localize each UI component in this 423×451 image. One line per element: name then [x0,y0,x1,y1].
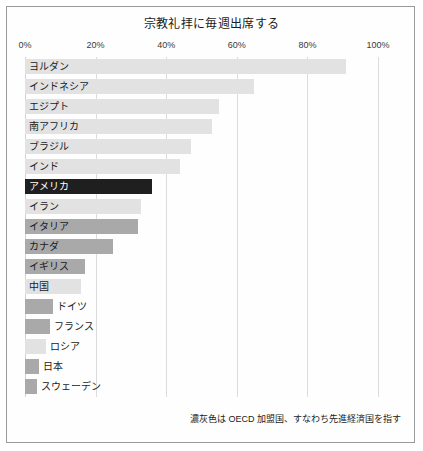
bar[interactable] [25,59,346,74]
bar-row[interactable]: イタリア [0,217,423,238]
bar-rows: ヨルダンインドネシアエジプト南アフリカブラジルインドアメリカイランイタリアカナダ… [0,57,423,397]
bar-row[interactable]: インドネシア [0,77,423,98]
bar-label: カナダ [29,239,59,254]
x-tick-label-0: 0% [18,40,31,50]
bar-label: インド [29,159,59,174]
bar-label: ロシア [50,339,80,354]
bar-row[interactable]: ドイツ [0,297,423,318]
bar-label: 日本 [43,359,63,374]
bar-row[interactable]: スウェーデン [0,377,423,398]
plot-area: ヨルダンインドネシアエジプト南アフリカブラジルインドアメリカイランイタリアカナダ… [0,57,423,397]
bar[interactable] [25,339,46,354]
bar-row[interactable]: イギリス [0,257,423,278]
bar-row[interactable]: インド [0,157,423,178]
bar-row[interactable]: イラン [0,197,423,218]
bar-row[interactable]: 日本 [0,357,423,378]
bar-row[interactable]: ロシア [0,337,423,358]
x-tick-label-100: 100% [366,40,389,50]
bar-label: ヨルダン [29,59,69,74]
bar-row[interactable]: ヨルダン [0,57,423,78]
bar-label: スウェーデン [41,379,101,394]
bar-label: ブラジル [29,139,69,154]
bar[interactable] [25,359,39,374]
bar[interactable] [25,299,53,314]
bar-row[interactable]: ブラジル [0,137,423,158]
bar-row[interactable]: 中国 [0,277,423,298]
x-tick-label-20: 20% [87,40,105,50]
x-axis-tick-labels: 0%20%40%60%80%100% [0,40,423,54]
bar-label: 南アフリカ [29,119,79,134]
bar-label: エジプト [29,99,69,114]
chart-page: 宗教礼拝に毎週出席する 0%20%40%60%80%100% ヨルダンインドネシ… [0,0,423,451]
chart-title: 宗教礼拝に毎週出席する [0,14,423,31]
bar-label: イラン [29,199,59,214]
bar-row[interactable]: フランス [0,317,423,338]
bar[interactable] [25,379,37,394]
bar-row[interactable]: エジプト [0,97,423,118]
chart-footnote: 濃灰色は OECD 加盟国、すなわち先進経済国を指す [190,412,401,425]
bar-row[interactable]: 南アフリカ [0,117,423,138]
bar[interactable] [25,319,50,334]
x-tick-label-60: 60% [228,40,246,50]
bar-label: イギリス [29,259,69,274]
x-tick-label-40: 40% [157,40,175,50]
bar-label: イタリア [29,219,69,234]
bar-row[interactable]: カナダ [0,237,423,258]
bar-label: インドネシア [29,79,89,94]
x-tick-label-80: 80% [298,40,316,50]
bar-label: 中国 [29,279,49,294]
bar-row[interactable]: アメリカ [0,177,423,198]
bar-label: フランス [54,319,94,334]
bar-label: ドイツ [57,299,87,314]
bar-label: アメリカ [29,179,69,194]
